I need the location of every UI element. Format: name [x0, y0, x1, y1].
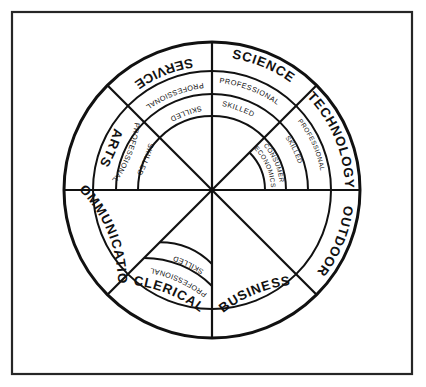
career-cluster-wheel-figure: SCIENCE TECHNOLOGY OUTDOOR BUSINESS CLER… — [0, 0, 426, 387]
